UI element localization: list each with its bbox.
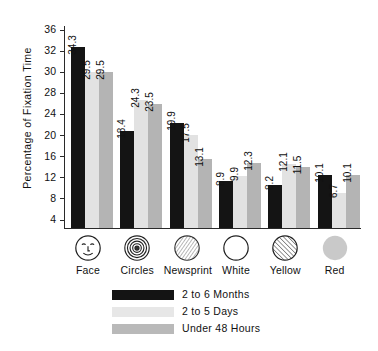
bar (219, 181, 233, 228)
bar (247, 163, 261, 228)
y-tick-label: 24 (22, 107, 56, 119)
bar (85, 72, 99, 228)
bar (120, 131, 134, 228)
plot-area: 34.329.529.518.424.323.519.917.513.18.99… (64, 26, 360, 228)
bar-value-label: 24.3 (130, 88, 141, 107)
y-tick-label: 30 (22, 65, 56, 77)
category-item: Newsprint (164, 233, 210, 276)
bar (296, 167, 310, 228)
category-item: White (213, 233, 259, 276)
bar-value-label: 29.5 (95, 60, 106, 79)
category-label: Face (65, 264, 111, 276)
y-tick-label: 28 (22, 86, 56, 98)
legend-item: 2 to 6 Months (112, 288, 312, 303)
bar (99, 72, 113, 228)
bar-value-label: 9.9 (229, 167, 240, 181)
bar-value-label: 12.1 (278, 152, 289, 171)
bar (268, 185, 282, 228)
bar-value-label: 29.5 (81, 60, 92, 79)
bar-value-label: 11.5 (292, 156, 303, 175)
bar-value-label: 17.5 (180, 124, 191, 143)
y-tick-label: 36 (22, 23, 56, 35)
bar (198, 159, 212, 228)
legend-item: 2 to 5 Days (112, 305, 312, 320)
bar-value-label: 12.3 (243, 151, 254, 170)
legend-label: 2 to 5 Days (182, 305, 238, 317)
chart-legend: 2 to 6 Months2 to 5 DaysUnder 48 Hours (112, 288, 312, 339)
bar-value-label: 23.5 (144, 92, 155, 111)
legend-label: Under 48 Hours (182, 322, 260, 334)
bar-value-label: 13.1 (194, 147, 205, 166)
newsprint-hatch-icon (172, 233, 202, 263)
bar-chart-figure: Percentage of Fixation Time 363230282420… (0, 0, 378, 351)
bar-group: 19.917.513.1 (170, 26, 212, 228)
category-label: Circles (114, 264, 160, 276)
y-tick-label: 32 (22, 44, 56, 56)
bar-value-label: 6.7 (328, 184, 339, 198)
legend-label: 2 to 6 Months (182, 288, 250, 300)
category-item: Yellow (262, 233, 308, 276)
bar-value-label: 34.3 (67, 35, 78, 54)
x-axis-line (64, 228, 361, 229)
bar (134, 100, 148, 228)
legend-swatch (112, 290, 174, 300)
category-item: Circles (114, 233, 160, 276)
legend-swatch (112, 307, 174, 317)
y-tick-label: 4 (22, 213, 56, 225)
red-filled-circle-icon (320, 233, 350, 263)
y-tick-label: 16 (22, 150, 56, 162)
y-tick-label: 20 (22, 129, 56, 141)
category-label: Newsprint (164, 264, 210, 276)
bar-group: 8.212.111.5 (268, 26, 310, 228)
bar-value-label: 19.9 (166, 111, 177, 130)
category-label: Yellow (262, 264, 308, 276)
bar-group: 34.329.529.5 (71, 26, 113, 228)
bar-value-label: 8.2 (264, 176, 275, 190)
y-tick-label: 8 (22, 192, 56, 204)
legend-swatch (112, 324, 174, 334)
bar-value-label: 18.4 (116, 119, 127, 138)
category-item: Face (65, 233, 111, 276)
category-axis: FaceCirclesNewsprintWhiteYellowRed (64, 233, 360, 281)
category-label: White (213, 264, 259, 276)
bar (148, 104, 162, 228)
legend-item: Under 48 Hours (112, 322, 312, 337)
bar-value-label: 8.9 (215, 172, 226, 186)
category-item: Red (312, 233, 358, 276)
bar-value-label: 10.1 (314, 163, 325, 182)
white-circle-icon (221, 233, 251, 263)
bar-group: 18.424.323.5 (120, 26, 162, 228)
bar-group: 10.16.710.1 (318, 26, 360, 228)
yellow-hatch-circle-icon (270, 233, 300, 263)
bar (233, 176, 247, 228)
face-icon (73, 233, 103, 263)
concentric-circles-icon (122, 233, 152, 263)
category-label: Red (312, 264, 358, 276)
y-tick-label: 12 (22, 171, 56, 183)
bar-value-label: 10.1 (342, 163, 353, 182)
bar-group: 8.99.912.3 (219, 26, 261, 228)
